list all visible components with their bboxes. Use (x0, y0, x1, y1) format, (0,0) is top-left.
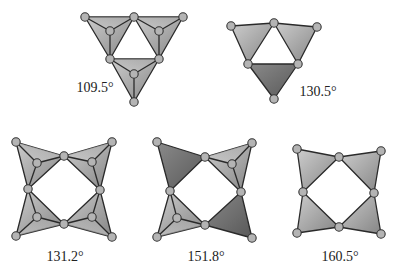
tetrahedron (205, 192, 252, 238)
oxygen-atom-icon (96, 186, 104, 194)
oxygen-atom-icon (12, 138, 20, 146)
tetrahedron (339, 193, 381, 234)
oxygen-atom-icon (24, 185, 32, 193)
oxygen-atom-icon (60, 220, 68, 228)
tetrahedron (85, 17, 134, 59)
tetrahedron-face (248, 64, 298, 99)
angle-label: 160.5° (321, 249, 358, 264)
angle-label: 130.5° (299, 84, 336, 99)
tetrahedron-face (339, 151, 381, 193)
panel-151-8: 151.8° (153, 138, 256, 264)
oxygen-atom-icon (248, 139, 256, 147)
angle-label: 109.5° (76, 80, 113, 95)
oxygen-atom-icon (33, 213, 41, 221)
oxygen-atom-icon (248, 234, 256, 242)
tetrahedron (110, 59, 159, 102)
tetrahedron (16, 189, 64, 236)
panel-130-5: 130.5° (227, 19, 337, 103)
oxygen-atom-icon (12, 232, 20, 240)
tetrahedron-face (297, 149, 339, 192)
tetrahedron (205, 143, 252, 192)
tetrahedra-diagram: 109.5°130.5°131.2°151.8°160.5° (0, 0, 396, 273)
oxygen-atom-icon (106, 27, 114, 35)
angle-label: 131.2° (46, 249, 83, 264)
oxygen-atom-icon (81, 13, 89, 21)
oxygen-atom-icon (270, 95, 278, 103)
oxygen-atom-icon (370, 189, 378, 197)
tetrahedron (157, 191, 205, 237)
oxygen-atom-icon (60, 152, 68, 160)
tetrahedron (157, 142, 205, 191)
oxygen-atom-icon (153, 138, 161, 146)
oxygen-atom-icon (293, 229, 301, 237)
oxygen-atom-icon (108, 233, 116, 241)
angle-label: 151.8° (187, 249, 224, 264)
oxygen-atom-icon (237, 188, 245, 196)
oxygen-atom-icon (377, 147, 385, 155)
tetrahedron-face (205, 192, 252, 238)
oxygen-atom-icon (228, 160, 236, 168)
oxygen-atom-icon (201, 221, 209, 229)
oxygen-atom-icon (293, 145, 301, 153)
panel-131-2: 131.2° (12, 138, 116, 264)
tetrahedron (297, 192, 339, 233)
tetrahedron (231, 23, 274, 64)
tetrahedron-face (339, 193, 381, 234)
oxygen-atom-icon (33, 159, 41, 167)
oxygen-atom-icon (173, 214, 181, 222)
tetrahedron-face (297, 192, 339, 233)
oxygen-atom-icon (335, 153, 343, 161)
oxygen-atom-icon (179, 13, 187, 21)
oxygen-atom-icon (270, 19, 278, 27)
oxygen-atom-icon (227, 22, 235, 30)
tetrahedron (274, 23, 317, 64)
oxygen-atom-icon (130, 13, 138, 21)
oxygen-atom-icon (313, 23, 321, 31)
oxygen-atom-icon (335, 223, 343, 231)
tetrahedron-face (231, 23, 274, 64)
oxygen-atom-icon (88, 213, 96, 221)
oxygen-atom-icon (130, 98, 138, 106)
oxygen-atom-icon (155, 27, 163, 35)
panels-group: 109.5°130.5°131.2°151.8°160.5° (12, 13, 385, 264)
oxygen-atom-icon (153, 233, 161, 241)
oxygen-atom-icon (108, 138, 116, 146)
tetrahedron (64, 142, 112, 190)
tetrahedron-face (274, 23, 317, 64)
oxygen-atom-icon (299, 188, 307, 196)
oxygen-atom-icon (201, 153, 209, 161)
oxygen-atom-icon (377, 230, 385, 238)
oxygen-atom-icon (130, 70, 138, 78)
panel-109-5: 109.5° (76, 13, 187, 106)
oxygen-atom-icon (88, 158, 96, 166)
oxygen-atom-icon (294, 60, 302, 68)
tetrahedron (297, 149, 339, 192)
tetrahedron (248, 64, 298, 99)
panel-160-5: 160.5° (293, 145, 385, 264)
tetrahedron (339, 151, 381, 193)
oxygen-atom-icon (155, 55, 163, 63)
tetrahedron (64, 190, 112, 237)
tetrahedron (134, 17, 183, 59)
oxygen-atom-icon (244, 60, 252, 68)
tetrahedron-face (157, 142, 205, 191)
oxygen-atom-icon (166, 187, 174, 195)
oxygen-atom-icon (106, 55, 114, 63)
